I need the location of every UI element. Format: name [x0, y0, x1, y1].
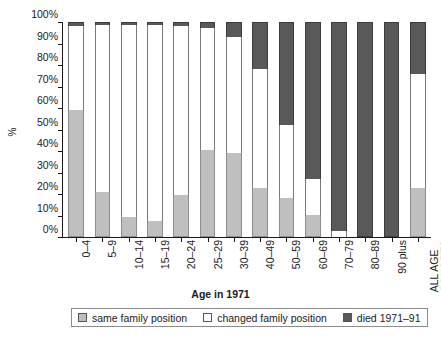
y-axis-tick-label: 100% [22, 7, 58, 21]
bar-segment-same [200, 150, 216, 237]
x-axis-tick-mark [155, 238, 156, 242]
bar-segment-died [305, 22, 321, 179]
bar-segment-died [410, 22, 426, 74]
bar-segment-changed [305, 179, 321, 216]
plot-area [63, 22, 431, 237]
bar-segment-same [147, 221, 163, 237]
bar-segment-changed [121, 25, 137, 216]
bar-segment-same [305, 215, 321, 237]
y-axis-tick-mark [58, 87, 63, 88]
bar-segment-changed [147, 25, 163, 221]
y-axis-tick-label: 90% [22, 29, 58, 43]
x-axis-line [62, 237, 431, 238]
bar-stack [68, 22, 84, 237]
y-axis-tick-mark [58, 22, 63, 23]
bar-segment-changed [226, 37, 242, 153]
x-axis-tick-label: 90 plus [397, 240, 408, 274]
legend-item: same family position [78, 312, 187, 324]
bar-segment-died [279, 22, 295, 125]
x-axis-tick-mark [286, 238, 287, 242]
y-axis-tick-mark [58, 108, 63, 109]
y-axis-tick-label: 0% [22, 222, 58, 236]
bar-stack [410, 22, 426, 237]
x-axis-tick-label: 0–4 [81, 240, 92, 258]
bar-segment-same [410, 188, 426, 237]
bar-segment-changed [279, 125, 295, 198]
bar-segment-died [331, 22, 347, 231]
x-axis-tick-mark [234, 238, 235, 242]
chart-figure: % 0%10%20%30%40%50%60%70%80%90%100% Age … [0, 0, 441, 342]
same-family-swatch [78, 313, 87, 322]
y-axis-tick-mark [58, 65, 63, 66]
bar-stack [121, 22, 137, 237]
bar-stack [252, 22, 268, 237]
bar-segment-same [173, 195, 189, 237]
y-axis-tick-label: 10% [22, 201, 58, 215]
bar-segment-changed [173, 26, 189, 195]
x-axis-tick-label: 10–14 [134, 240, 145, 269]
died-swatch [343, 313, 352, 322]
bar-segment-changed [95, 25, 111, 192]
bar-stack [331, 22, 347, 237]
x-axis-tick-mark [365, 238, 366, 242]
x-axis-tick-label: 15–19 [160, 240, 171, 269]
y-axis-tick-label: 50% [22, 115, 58, 129]
y-axis-label: % [4, 123, 22, 141]
bar-stack [305, 22, 321, 237]
x-axis-tick-label: 50–59 [291, 240, 302, 269]
bar-segment-changed [252, 69, 268, 187]
y-axis-tick-label: 60% [22, 93, 58, 107]
y-axis-tick-label: 20% [22, 179, 58, 193]
bar-segment-same [226, 153, 242, 237]
y-axis-tick-label: 40% [22, 136, 58, 150]
x-axis-tick-mark [102, 238, 103, 242]
bar-segment-died [384, 22, 400, 237]
bar-stack [226, 22, 242, 237]
bar-stack [279, 22, 295, 237]
y-axis-tick-label: 30% [22, 158, 58, 172]
bar-segment-same [68, 110, 84, 237]
y-axis-tick-labels: 0%10%20%30%40%50%60%70%80%90%100% [22, 14, 58, 244]
x-axis-tick-mark [208, 238, 209, 242]
x-axis-tick-label: 70–79 [344, 240, 355, 269]
bar-segment-changed [200, 28, 216, 149]
x-axis-tick-mark [260, 238, 261, 242]
bar-segment-died [226, 22, 242, 37]
y-axis-tick-mark [58, 130, 63, 131]
bar-segment-changed [331, 231, 347, 237]
bar-stack [357, 22, 373, 237]
bar-segment-changed [68, 26, 84, 110]
x-axis-tick-mark [392, 238, 393, 242]
x-axis-tick-label: ALL AGECOHORTS [429, 240, 441, 292]
changed-family-swatch [203, 313, 212, 322]
x-axis-tick-label: 5–9 [107, 240, 118, 258]
x-axis-tick-mark [76, 238, 77, 242]
bar-stack [384, 22, 400, 237]
y-axis-tick-mark [58, 44, 63, 45]
bar-stack [147, 22, 163, 237]
bar-stack [200, 22, 216, 237]
legend-item: died 1971–91 [343, 312, 421, 324]
x-axis-tick-label: 20–24 [186, 240, 197, 269]
x-axis-tick-mark [313, 238, 314, 242]
x-axis-title: Age in 1971 [0, 288, 441, 300]
x-axis-tick-mark [418, 238, 419, 242]
y-axis-tick-mark [58, 173, 63, 174]
y-axis-tick-label: 80% [22, 50, 58, 64]
x-axis-tick-mark [129, 238, 130, 242]
legend-item-label: same family position [92, 312, 187, 324]
bar-segment-died [357, 22, 373, 237]
bar-segment-changed [410, 74, 426, 188]
x-axis-tick-label: 25–29 [213, 240, 224, 269]
bar-segment-same [279, 198, 295, 237]
chart-legend: same family positionchanged family posit… [71, 308, 428, 327]
legend-item-label: changed family position [217, 312, 327, 324]
bar-stack [173, 22, 189, 237]
x-axis-tick-label: 40–49 [265, 240, 276, 269]
bar-segment-same [121, 217, 137, 237]
x-axis-tick-mark [181, 238, 182, 242]
x-axis-tick-label: 80–89 [370, 240, 381, 269]
y-axis-tick-mark [58, 216, 63, 217]
y-axis-tick-mark [58, 237, 63, 238]
legend-item: changed family position [203, 312, 327, 324]
